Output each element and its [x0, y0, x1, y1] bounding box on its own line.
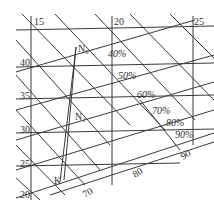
horizontal-lines	[16, 26, 214, 166]
label-20-h: 20	[20, 189, 30, 200]
label-40: 40	[20, 57, 30, 68]
rh-90: 90%	[175, 129, 193, 140]
label-20: 20	[114, 16, 124, 27]
label-25: 25	[194, 16, 204, 27]
label-15: 15	[34, 16, 44, 27]
label-25-h: 25	[20, 158, 30, 169]
label-30: 30	[20, 124, 30, 135]
rh-40: 40%	[108, 48, 126, 59]
point-n1: N₁	[75, 111, 86, 122]
rh-50: 50%	[118, 70, 136, 81]
enthalpy-diagonal-lines	[16, 14, 214, 200]
rh-60: 60%	[137, 89, 155, 100]
bottom-label-70: 70	[81, 185, 95, 200]
psychrometric-chart: 15 20 25 40 35 30 25 20 40% 50% 60% 70% …	[0, 0, 214, 215]
process-lines	[60, 47, 76, 182]
rh-70: 70%	[152, 105, 170, 116]
point-n0: N₀	[78, 43, 89, 54]
label-35: 35	[20, 90, 30, 101]
bottom-label-80: 80	[131, 165, 145, 180]
rh-80: 80%	[166, 117, 184, 128]
point-k: K	[54, 175, 62, 186]
